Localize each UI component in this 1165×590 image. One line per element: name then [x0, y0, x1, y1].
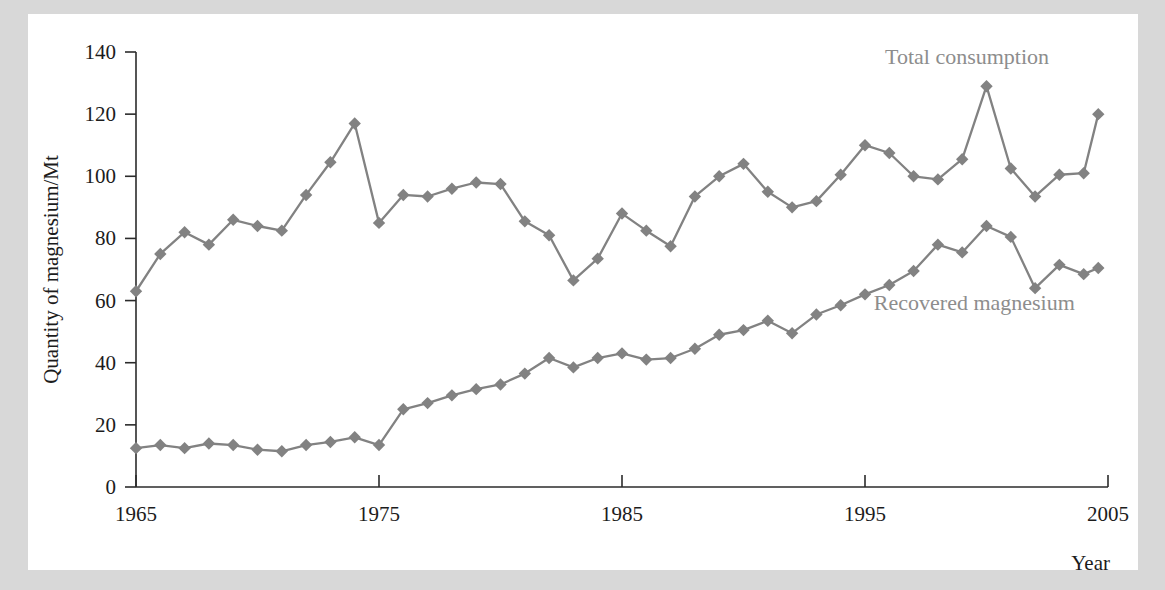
data-point-marker: [300, 439, 312, 451]
data-point-marker: [786, 201, 798, 213]
data-point-marker: [664, 352, 676, 364]
data-point-marker: [203, 437, 215, 449]
data-point-marker: [349, 117, 361, 129]
data-point-marker: [689, 343, 701, 355]
data-point-marker: [519, 367, 531, 379]
y-tick-label-60: 60: [95, 289, 116, 313]
data-point-marker: [1092, 108, 1104, 120]
data-point-marker: [251, 220, 263, 232]
magnesium-consumption-chart: 02040608010012014019651975198519952005Qu…: [28, 14, 1138, 570]
data-point-marker: [737, 324, 749, 336]
x-tick-label-1995: 1995: [844, 502, 886, 526]
series-recovered-magnesium: [130, 220, 1105, 458]
data-point-marker: [178, 442, 190, 454]
data-point-marker: [592, 352, 604, 364]
x-tick-label-1965: 1965: [115, 502, 157, 526]
data-point-marker: [762, 315, 774, 327]
data-point-marker: [276, 445, 288, 457]
data-point-marker: [519, 215, 531, 227]
data-point-marker: [664, 240, 676, 252]
data-point-marker: [980, 80, 992, 92]
data-point-marker: [640, 353, 652, 365]
data-point-marker: [373, 439, 385, 451]
data-point-marker: [324, 436, 336, 448]
series-polyline: [136, 86, 1098, 291]
data-point-marker: [470, 383, 482, 395]
data-point-marker: [494, 378, 506, 390]
series-label-recovered-magnesium: Recovered magnesium: [874, 290, 1075, 315]
y-tick-label-0: 0: [106, 475, 117, 499]
y-tick-label-140: 140: [85, 40, 117, 64]
x-tick-label-1985: 1985: [601, 502, 643, 526]
x-tick-label-2005: 2005: [1087, 502, 1129, 526]
y-tick-label-40: 40: [95, 351, 116, 375]
data-point-marker: [349, 431, 361, 443]
data-point-marker: [227, 439, 239, 451]
y-tick-label-100: 100: [85, 164, 117, 188]
data-point-marker: [835, 299, 847, 311]
y-tick-label-80: 80: [95, 226, 116, 250]
data-point-marker: [713, 329, 725, 341]
x-axis-title: Year: [1071, 551, 1110, 570]
data-point-marker: [494, 178, 506, 190]
data-point-marker: [130, 285, 142, 297]
data-point-marker: [1092, 262, 1104, 274]
y-axis-title: Quantity of magnesium/Mt: [39, 155, 63, 384]
data-point-marker: [616, 347, 628, 359]
data-point-marker: [130, 442, 142, 454]
data-point-marker: [543, 352, 555, 364]
data-point-marker: [154, 439, 166, 451]
y-tick-label-120: 120: [85, 102, 117, 126]
data-point-marker: [567, 361, 579, 373]
data-point-marker: [470, 176, 482, 188]
data-point-marker: [1078, 268, 1090, 280]
data-point-marker: [421, 190, 433, 202]
data-point-marker: [446, 183, 458, 195]
data-point-marker: [543, 229, 555, 241]
series-polyline: [136, 226, 1098, 451]
screenshot-canvas: 02040608010012014019651975198519952005Qu…: [0, 0, 1165, 590]
chart-card: 02040608010012014019651975198519952005Qu…: [28, 14, 1138, 570]
series-label-total-consumption: Total consumption: [885, 44, 1049, 69]
data-point-marker: [859, 288, 871, 300]
data-point-marker: [251, 444, 263, 456]
y-tick-label-20: 20: [95, 413, 116, 437]
data-point-marker: [1078, 167, 1090, 179]
data-point-marker: [1005, 231, 1017, 243]
x-tick-label-1975: 1975: [358, 502, 400, 526]
data-point-marker: [446, 389, 458, 401]
series-total-consumption: [130, 80, 1105, 297]
data-point-marker: [421, 397, 433, 409]
